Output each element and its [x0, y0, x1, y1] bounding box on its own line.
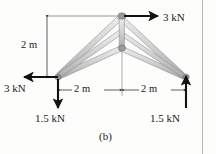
- page-edge-rule: [202, 0, 203, 154]
- label-span-left: 2 m: [74, 84, 90, 95]
- label-left-force: 3 kN: [4, 83, 26, 94]
- label-height-dimension: 2 m: [21, 40, 37, 51]
- label-left-reaction: 1.5 kN: [35, 113, 65, 124]
- label-top-force: 3 kN: [163, 12, 185, 23]
- figure-caption: (b): [99, 131, 112, 142]
- member-right-bottom-chord: [119, 46, 185, 79]
- label-span-right: 2 m: [141, 84, 157, 95]
- member-vertical-web: [119, 16, 124, 48]
- joint-center: [118, 45, 125, 51]
- truss-figure: 3 kN 3 kN 2 m 2 m 2 m 1.5 kN 1.5 kN (b): [0, 0, 216, 154]
- label-right-reaction: 1.5 kN: [150, 113, 180, 124]
